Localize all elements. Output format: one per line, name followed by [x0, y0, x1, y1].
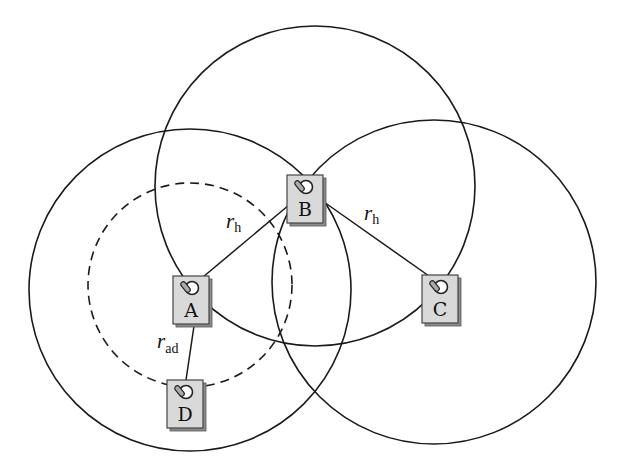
edge-label-b-c: rh: [364, 201, 379, 227]
edge-label-a-b: rh: [226, 209, 241, 235]
edge-label-a-d-sub: ad: [165, 341, 178, 356]
node-label-a: A: [183, 299, 198, 321]
edge-label-a-b-sub: h: [234, 220, 241, 235]
edge-label-a-d: rad: [157, 329, 178, 356]
network-diagram: rh rh rad A B C: [0, 0, 625, 475]
node-a[interactable]: A: [173, 276, 212, 327]
node-c[interactable]: C: [422, 275, 461, 326]
node-b[interactable]: B: [287, 175, 326, 226]
edge-label-b-c-sub: h: [372, 212, 379, 227]
link-a-d: [186, 326, 194, 380]
node-label-d: D: [177, 403, 192, 425]
node-d[interactable]: D: [167, 380, 206, 431]
node-label-c: C: [433, 298, 448, 320]
node-label-b: B: [298, 198, 312, 220]
link-a-b: [203, 205, 289, 277]
